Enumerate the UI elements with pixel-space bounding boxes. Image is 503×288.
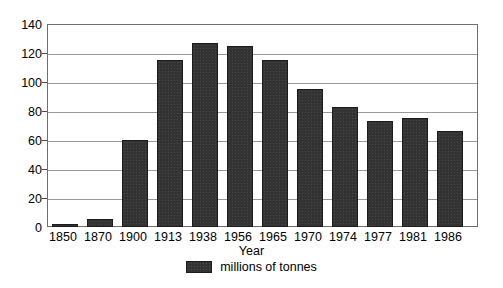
legend-item-label: millions of tonnes	[220, 261, 317, 274]
bar-1870[interactable]	[87, 219, 113, 227]
bar-1850[interactable]	[52, 224, 78, 227]
y-axis-tick-mark	[42, 82, 47, 83]
bar-1900[interactable]	[122, 140, 148, 227]
x-axis-tick-label: 1938	[184, 231, 222, 244]
y-axis-tick-label: 40	[2, 164, 42, 177]
x-axis-tick-label: 1900	[114, 231, 152, 244]
x-axis-tick-label: 1970	[289, 231, 327, 244]
y-axis-tick-label: 140	[2, 19, 42, 32]
bar-1977[interactable]	[367, 121, 393, 227]
y-axis-tick-mark	[42, 53, 47, 54]
x-axis-tick-label: 1977	[359, 231, 397, 244]
y-axis-tick-mark	[42, 140, 47, 141]
y-axis-tick-label: 20	[2, 193, 42, 206]
y-axis-tick-label: 80	[2, 106, 42, 119]
bar-1974[interactable]	[332, 107, 358, 227]
bar-1986[interactable]	[437, 131, 463, 227]
bar-1970[interactable]	[297, 89, 323, 227]
bar-1981[interactable]	[402, 118, 428, 227]
gridline	[48, 54, 477, 55]
y-axis-tick-label: 120	[2, 48, 42, 61]
x-axis-title: Year	[0, 245, 503, 258]
y-axis-tick-mark	[42, 111, 47, 112]
x-axis-tick-label: 1986	[429, 231, 467, 244]
chart-legend: millions of tonnes	[0, 261, 503, 274]
x-axis-tick-label: 1870	[79, 231, 117, 244]
x-axis-tick-label: 1913	[149, 231, 187, 244]
y-axis-tick-mark	[42, 169, 47, 170]
x-axis-tick-label: 1965	[254, 231, 292, 244]
x-axis-tick-label: 1981	[394, 231, 432, 244]
y-axis-tick-label: 100	[2, 77, 42, 90]
x-axis-tick-label: 1850	[44, 231, 82, 244]
y-axis-tick-label: 0	[2, 222, 42, 235]
bar-1965[interactable]	[262, 60, 288, 227]
x-axis-tick-label: 1974	[324, 231, 362, 244]
bar-1938[interactable]	[192, 43, 218, 227]
bar-chart: 140 120 100 80 60 40 20 0 1850 1870 1900…	[0, 0, 503, 288]
legend-swatch-icon	[186, 261, 212, 273]
y-axis-tick-label: 60	[2, 135, 42, 148]
bar-1913[interactable]	[157, 60, 183, 227]
y-axis-tick-mark	[42, 198, 47, 199]
x-axis-tick-label: 1956	[219, 231, 257, 244]
bar-1956[interactable]	[227, 46, 253, 227]
